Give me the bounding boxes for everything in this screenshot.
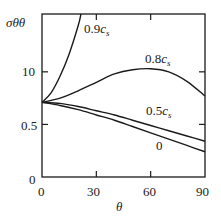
- x-tick-0: 0: [38, 185, 45, 198]
- curve-label-0: 0: [156, 139, 163, 152]
- curve-0: [42, 102, 205, 151]
- y-tick-5: 0.5: [21, 119, 37, 132]
- curve-label-0.5cs: 0.5cs: [146, 104, 172, 120]
- curve-0.8cs: [42, 69, 205, 103]
- curve-label-0.9cs: 0.9cs: [84, 22, 110, 38]
- y-axis-label: σθθ: [6, 16, 25, 29]
- curve-0.5cs: [42, 102, 205, 141]
- y-tick-0: 0: [29, 173, 36, 186]
- y-tick-10: 10: [22, 65, 35, 78]
- x-axis-label: θ: [116, 200, 122, 213]
- curves: [42, 14, 205, 152]
- x-tick-30: 30: [87, 185, 100, 198]
- curve-label-0.8cs: 0.8cs: [145, 52, 171, 68]
- x-tick-90: 90: [196, 185, 209, 198]
- x-tick-60: 60: [143, 185, 156, 198]
- curve-0.9cs: [42, 14, 81, 102]
